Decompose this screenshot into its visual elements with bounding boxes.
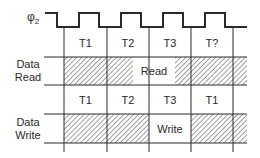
read-state-2: T2: [107, 37, 149, 49]
clock-waveform: [45, 13, 247, 27]
read-hatch-left: [64, 57, 133, 85]
read-state-4: T?: [191, 37, 233, 49]
write-state-2: T2: [107, 94, 149, 106]
phi2-label: φ2: [27, 10, 39, 26]
write-hatch-right: [191, 114, 247, 143]
data-read-label: Data Read: [6, 58, 50, 84]
write-state-3: T3: [149, 94, 191, 106]
write-window-label: Write: [149, 123, 191, 135]
read-state-3: T3: [149, 37, 191, 49]
read-state-1: T1: [64, 37, 107, 49]
read-window-label: Read: [133, 65, 175, 77]
read-hatch-right: [175, 57, 247, 85]
write-state-1: T1: [64, 94, 107, 106]
data-write-label: Data Write: [6, 116, 50, 142]
write-state-4: T1: [191, 94, 233, 106]
